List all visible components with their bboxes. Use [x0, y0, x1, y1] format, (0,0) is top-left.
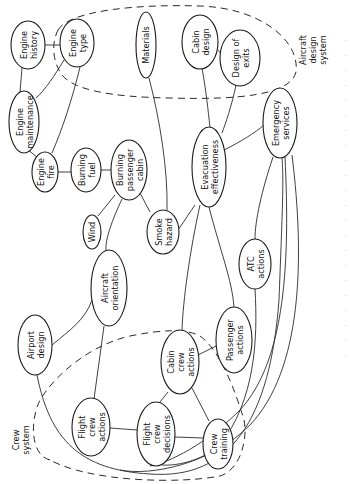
svg-text:Emergencyservices: Emergencyservices [271, 100, 291, 146]
node-cabin-crew-actions: Cabincrewactions [161, 330, 199, 394]
svg-text:Enginehistory: Enginehistory [19, 31, 39, 59]
svg-text:Materials: Materials [141, 26, 151, 64]
node-airport-design: Airportdesign [18, 315, 52, 375]
node-label: Engine [19, 31, 29, 59]
node-burning-fuel: Burningfuel [71, 148, 101, 192]
node-materials: Materials [136, 12, 156, 78]
node-engine-fire: Enginefire [32, 152, 58, 192]
crew-system-label: Crewsystem [11, 425, 31, 455]
node-passenger-actions: Passengeractions [216, 307, 252, 373]
aircraft-design-system-label: Aircraftdesignsystem [298, 34, 328, 65]
node-burning-passenger-cabin: Burningpassengercabin [111, 140, 147, 200]
node-crew-training: Crewtraining [203, 419, 233, 469]
node-emergency-services: Emergencyservices [263, 88, 297, 158]
influence-diagram: Enginehistory Enginetype Enginemaintenan… [0, 0, 350, 484]
node-engine-type: Enginetype [60, 19, 94, 67]
svg-text:Wind: Wind [87, 222, 97, 243]
node-atc-actions: ATCactions [239, 239, 271, 289]
node-design-of-exits: Design ofexits [220, 30, 260, 86]
svg-text:Airportdesign: Airportdesign [26, 330, 46, 359]
node-engine-history: Enginehistory [11, 21, 45, 69]
node-wind: Wind [83, 215, 101, 249]
node-engine-maintenance: Enginemaintenance [9, 91, 39, 153]
node-flight-crew-decisions: Flightcrewdecisions [137, 402, 175, 466]
node-evacuation-effectiveness: Evacuationeffectiveness [192, 127, 226, 207]
svg-text:Smokehazard: Smokehazard [154, 218, 174, 246]
svg-text:Evacuationeffectiveness: Evacuationeffectiveness [200, 140, 220, 194]
node-cabin-design: Cabindesign [182, 15, 218, 69]
node-smoke-hazard: Smokehazard [147, 210, 179, 254]
node-aircraft-orientation: Aircraftorientation [91, 250, 127, 326]
node-flight-crew-actions: Flightcrewactions [72, 398, 110, 456]
svg-text:Cabindesign: Cabindesign [191, 28, 211, 55]
